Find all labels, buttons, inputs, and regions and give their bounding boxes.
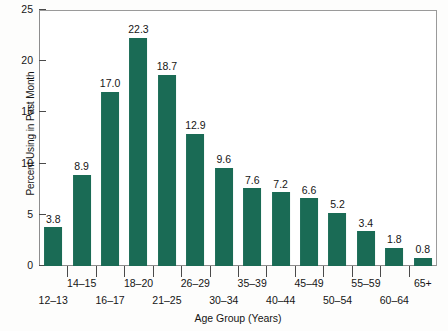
bar <box>243 188 261 266</box>
bar-value-label: 1.8 <box>387 234 402 245</box>
y-tick-label: 15 <box>21 105 33 117</box>
x-tick-mark <box>295 266 296 277</box>
bar-value-label: 22.3 <box>128 24 148 35</box>
bar-value-label: 3.8 <box>46 214 61 225</box>
x-tick-mark <box>266 266 267 277</box>
bar-slot: 6.6 <box>295 10 323 266</box>
bar-slot: 7.2 <box>266 10 294 266</box>
x-tick-mark <box>238 266 239 277</box>
x-tick-mark <box>323 266 324 277</box>
x-axis-category-label: 18–20 <box>124 278 153 289</box>
bar-value-label: 17.0 <box>100 78 120 89</box>
bar-slot: 12.9 <box>181 10 209 266</box>
bar <box>272 192 290 266</box>
y-tick-label: 0 <box>27 259 33 271</box>
y-tick-label: 5 <box>27 208 33 220</box>
x-axis-title: Age Group (Years) <box>39 312 437 324</box>
bar <box>329 213 347 266</box>
bar <box>101 92 119 266</box>
x-axis-category-label: 14–15 <box>67 278 96 289</box>
bar <box>357 231 375 266</box>
x-tick-mark <box>124 266 125 277</box>
bar-value-label: 3.4 <box>359 218 374 229</box>
y-tick-label: 25 <box>21 3 33 15</box>
bar-slot: 7.6 <box>238 10 266 266</box>
bar-slot: 18.7 <box>153 10 181 266</box>
x-axis-category-label: 16–17 <box>95 295 124 306</box>
bar-value-label: 12.9 <box>185 120 205 131</box>
bar-slot: 22.3 <box>124 10 152 266</box>
x-axis-category-label: 55–59 <box>351 278 380 289</box>
x-tick-mark <box>380 266 381 277</box>
bar-value-label: 7.2 <box>273 179 288 190</box>
y-axis-title: Percent Using in Past Month <box>25 44 36 224</box>
x-axis-category-label: 30–34 <box>209 295 238 306</box>
bar-value-label: 6.6 <box>302 185 317 196</box>
bar-slot: 9.6 <box>210 10 238 266</box>
x-tick-mark <box>181 266 182 277</box>
bar <box>130 38 148 266</box>
x-axis-category-label: 12–13 <box>39 295 68 306</box>
bar <box>385 248 403 266</box>
bar-chart-figure: Percent Using in Past Month 0510152025 3… <box>0 0 448 331</box>
bar-value-label: 5.2 <box>330 199 345 210</box>
bar-slot: 0.8 <box>409 10 437 266</box>
bar <box>44 227 62 266</box>
x-axis-labels: 12–1314–1516–1718–2021–2526–2930–3435–39… <box>39 277 437 311</box>
x-axis-category-label: 40–44 <box>266 295 295 306</box>
bar-value-label: 8.9 <box>74 161 89 172</box>
bar-value-label: 18.7 <box>157 61 177 72</box>
x-axis-category-label: 50–54 <box>323 295 352 306</box>
x-axis-category-label: 45–49 <box>294 278 323 289</box>
bar-slot: 17.0 <box>96 10 124 266</box>
x-tick-mark <box>96 266 97 277</box>
bar-slot: 8.9 <box>67 10 95 266</box>
bar <box>414 258 432 266</box>
bar-slot: 1.8 <box>380 10 408 266</box>
x-tick-mark <box>409 266 410 277</box>
bar-value-label: 9.6 <box>216 154 231 165</box>
bar <box>300 198 318 266</box>
bar <box>73 175 91 266</box>
bar-value-label: 7.6 <box>245 175 260 186</box>
bar <box>158 75 176 266</box>
x-tick-mark <box>153 266 154 277</box>
x-tick-mark <box>210 266 211 277</box>
x-axis-category-label: 35–39 <box>238 278 267 289</box>
x-axis-category-label: 21–25 <box>152 295 181 306</box>
bar-slot: 5.2 <box>323 10 351 266</box>
x-axis-category-label: 60–64 <box>380 295 409 306</box>
bars-container: 3.88.917.022.318.712.99.67.67.26.65.23.4… <box>39 10 437 266</box>
bar <box>215 168 233 266</box>
bar <box>186 134 204 266</box>
x-tick-mark <box>352 266 353 277</box>
y-tick-label: 10 <box>21 157 33 169</box>
bar-value-label: 0.8 <box>415 244 430 255</box>
x-axis-category-label: 65+ <box>414 278 432 289</box>
bar-slot: 3.8 <box>39 10 67 266</box>
x-axis-category-label: 26–29 <box>181 278 210 289</box>
x-tick-mark <box>67 266 68 277</box>
bar-slot: 3.4 <box>352 10 380 266</box>
y-tick-label: 20 <box>21 54 33 66</box>
